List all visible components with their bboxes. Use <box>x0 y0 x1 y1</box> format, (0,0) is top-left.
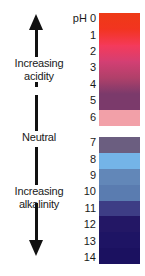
ph-tick-13: 13 <box>84 236 96 247</box>
ph-tick-value: 12 <box>84 218 96 230</box>
ph-unit-label: pH <box>73 12 87 24</box>
ph-band-7 <box>99 137 140 153</box>
ph-tick-value: 5 <box>90 94 96 106</box>
ph-band-3 <box>99 61 140 78</box>
ph-tick-value: 3 <box>90 61 96 73</box>
acidic-colour-bar <box>99 13 140 126</box>
ph-tick-9: 9 <box>90 170 96 181</box>
ph-tick-5: 5 <box>90 95 96 106</box>
ph-band-9 <box>99 169 140 185</box>
ph-tick-12: 12 <box>84 219 96 230</box>
ph-tick-1: 1 <box>90 30 96 41</box>
ph-colour-scale <box>99 0 141 276</box>
ph-band-2 <box>99 45 140 62</box>
ph-band-8 <box>99 153 140 169</box>
ph-tick-value: 13 <box>84 235 96 247</box>
ph-band-12 <box>99 216 140 232</box>
ph-band-4 <box>99 78 140 95</box>
ph-tick-value: 2 <box>90 45 96 57</box>
ph-band-13 <box>99 232 140 248</box>
ph-tick-3: 3 <box>90 62 96 73</box>
ph-tick-7: 7 <box>90 137 96 148</box>
ph-tick-value: 10 <box>84 185 96 197</box>
ph-tick-6: 6 <box>90 112 96 123</box>
up-arrow-icon <box>29 14 43 30</box>
axis-shaft-mid-lower <box>35 147 38 185</box>
ph-tick-value: 0 <box>90 12 96 24</box>
ph-band-11 <box>99 201 140 217</box>
ph-tick-value: 1 <box>90 29 96 41</box>
axis-shaft-mid-upper <box>35 95 38 131</box>
ph-tick-value: 8 <box>90 153 96 165</box>
ph-tick-value: 11 <box>85 202 96 214</box>
ph-band-14 <box>99 248 140 264</box>
ph-tick-11: 11 <box>85 203 96 214</box>
ph-tick-labels: pH01234567891011121314 <box>62 0 98 276</box>
ph-band-1 <box>99 29 140 46</box>
ph-tick-value: 14 <box>84 251 96 263</box>
alkaline-colour-bar <box>99 137 140 264</box>
ph-tick-2: 2 <box>90 46 96 57</box>
ph-band-5 <box>99 94 140 111</box>
ph-band-6 <box>99 110 140 126</box>
ph-tick-value: 7 <box>90 136 96 148</box>
down-arrow-icon <box>29 240 43 256</box>
ph-tick-4: 4 <box>90 79 96 90</box>
ph-tick-value: 6 <box>90 111 96 123</box>
ph-tick-10: 10 <box>84 186 96 197</box>
ph-tick-8: 8 <box>90 154 96 165</box>
ph-tick-value: 9 <box>90 169 96 181</box>
ph-band-0 <box>99 13 140 30</box>
ph-band-10 <box>99 185 140 201</box>
ph-tick-0: pH0 <box>73 13 96 24</box>
axis-shaft-lower <box>35 203 38 241</box>
ph-tick-value: 4 <box>90 78 96 90</box>
ph-tick-14: 14 <box>84 252 96 263</box>
